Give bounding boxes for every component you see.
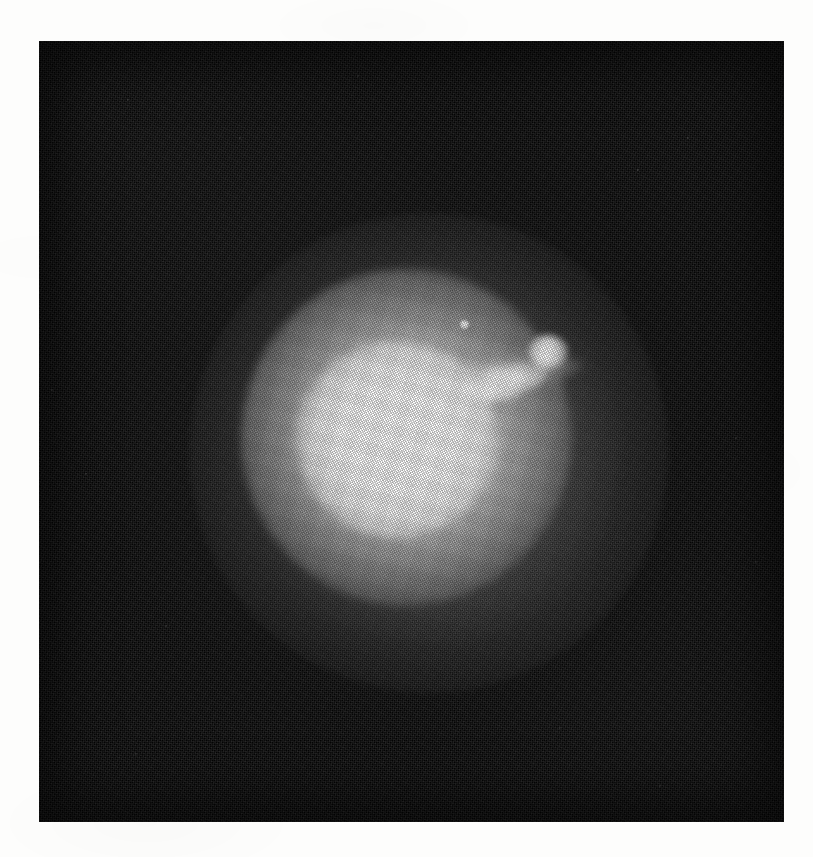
field-speck bbox=[135, 753, 137, 755]
field-speck bbox=[687, 137, 689, 139]
jet-outer-knot bbox=[528, 335, 568, 370]
scanned-page bbox=[0, 0, 813, 857]
field-speck bbox=[85, 473, 87, 475]
field-speck bbox=[755, 561, 757, 563]
field-speck bbox=[637, 169, 639, 171]
field-speck bbox=[165, 625, 167, 627]
field-speck bbox=[307, 493, 309, 495]
field-speck bbox=[659, 785, 661, 787]
field-speck bbox=[391, 783, 392, 784]
field-speck bbox=[739, 182, 740, 183]
field-speck bbox=[251, 459, 253, 461]
field-speck bbox=[703, 667, 704, 668]
foreground-star bbox=[460, 320, 469, 329]
field-speck bbox=[735, 437, 737, 439]
astronomical-photograph bbox=[39, 41, 784, 822]
galaxy-core-saturated bbox=[335, 381, 453, 493]
field-speck bbox=[371, 401, 373, 403]
field-speck bbox=[239, 137, 241, 139]
field-speck bbox=[51, 389, 53, 391]
field-speck bbox=[559, 727, 561, 729]
field-speck bbox=[127, 99, 129, 101]
field-speck bbox=[357, 75, 359, 77]
